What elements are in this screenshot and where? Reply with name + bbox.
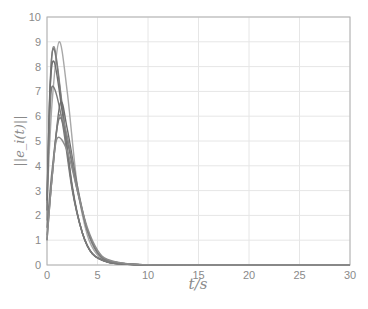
- x-tick-label: 5: [94, 269, 100, 281]
- x-tick-label: 10: [142, 269, 154, 281]
- y-tick-label: 7: [35, 85, 41, 97]
- y-axis-label: ||e_i(t)||: [12, 115, 27, 166]
- x-tick-label: 0: [44, 269, 50, 281]
- x-tick-label: 25: [293, 269, 305, 281]
- grid-lines: [47, 17, 350, 265]
- y-tick-label: 2: [35, 209, 41, 221]
- y-tick-label: 9: [35, 36, 41, 48]
- x-tick-label: 20: [243, 269, 255, 281]
- y-tick-label: 1: [35, 234, 41, 246]
- y-axis-ticks: 012345678910: [29, 11, 41, 271]
- x-axis-label: t/s: [189, 275, 208, 293]
- x-tick-label: 30: [344, 269, 356, 281]
- y-tick-label: 0: [35, 259, 41, 271]
- y-tick-label: 8: [35, 61, 41, 73]
- line-chart: 012345678910 051015202530 t/s ||e_i(t)||: [0, 0, 368, 309]
- y-tick-label: 3: [35, 185, 41, 197]
- y-tick-label: 6: [35, 110, 41, 122]
- y-tick-label: 4: [35, 160, 41, 172]
- y-tick-label: 10: [29, 11, 41, 23]
- y-tick-label: 5: [35, 135, 41, 147]
